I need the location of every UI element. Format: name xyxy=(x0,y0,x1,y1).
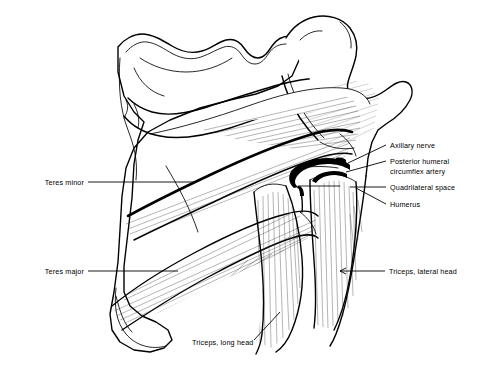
teres-major-muscle xyxy=(112,211,318,332)
label-quadrilateral-space: Quadrilateral space xyxy=(390,183,455,192)
label-posterior-humeral-circumflex-artery-line1: Posterior humeral xyxy=(390,157,449,166)
label-axillary-nerve: Axillary nerve xyxy=(390,141,435,150)
anatomy-figure: Teres minor Teres major Axillary nerve P… xyxy=(0,0,483,374)
label-triceps-lateral-head: Triceps, lateral head xyxy=(389,267,457,276)
labels: Teres minor Teres major Axillary nerve P… xyxy=(45,141,457,347)
label-posterior-humeral-circumflex-artery-line2: circumflex artery xyxy=(390,167,445,176)
triceps-long-head-muscle xyxy=(254,184,303,354)
teres-minor-muscle xyxy=(126,130,356,244)
label-teres-major: Teres major xyxy=(45,267,85,276)
label-teres-minor: Teres minor xyxy=(45,178,85,187)
triceps-lateral-head-muscle xyxy=(310,174,357,330)
circumflex-artery-structure xyxy=(312,171,347,183)
leader-humerus xyxy=(356,188,386,204)
label-humerus: Humerus xyxy=(390,200,420,209)
label-triceps-long-head: Triceps, long head xyxy=(192,338,253,347)
leader-triceps-long-head xyxy=(254,312,280,340)
